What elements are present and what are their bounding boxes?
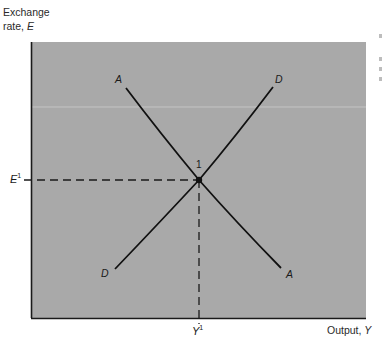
e1-superscript: 1 bbox=[17, 172, 21, 179]
cropped-text-fragment bbox=[379, 57, 382, 61]
x-axis-variable: Y bbox=[364, 324, 371, 336]
x-axis-title-prefix: Output, bbox=[327, 324, 364, 336]
equilibrium-point-1 bbox=[196, 177, 202, 183]
cropped-text-fragment bbox=[379, 67, 382, 71]
e1-tick-label: E1 bbox=[10, 172, 21, 185]
cropped-text-fragment bbox=[379, 77, 382, 81]
aa-bottom-label: A bbox=[285, 268, 293, 280]
dd-top-label: D bbox=[275, 73, 283, 85]
aa-top-label: A bbox=[114, 73, 122, 85]
chart-plot: 1 A A D D bbox=[0, 0, 386, 348]
y1-superscript: 1 bbox=[199, 324, 203, 331]
dd-bottom-label: D bbox=[101, 267, 109, 279]
x-axis-title: Output, Y bbox=[327, 324, 371, 336]
y1-tick-label: Y1 bbox=[192, 324, 203, 337]
point-label: 1 bbox=[196, 159, 202, 170]
cropped-text-fragment bbox=[379, 34, 382, 38]
